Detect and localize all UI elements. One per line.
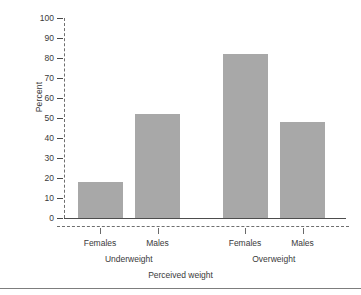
y-axis-tick-label: 20 [45, 173, 54, 183]
y-axis-tick-mark [57, 78, 63, 79]
x-axis-baseline [64, 218, 346, 220]
bar [78, 182, 123, 218]
y-axis-tick-label: 60 [45, 93, 54, 103]
x-axis-tick-mark [245, 228, 246, 234]
x-axis-group-label: Overweight [252, 254, 295, 264]
x-axis-tick-mark [303, 228, 304, 234]
y-axis-tick: 90 [18, 33, 64, 43]
bar [223, 54, 268, 218]
y-axis-tick-mark [57, 138, 63, 139]
y-axis-tick-label: 30 [45, 153, 54, 163]
x-axis-tick-label: Males [291, 238, 314, 248]
x-axis-dashed-line [57, 226, 349, 227]
bottom-divider [0, 288, 361, 289]
x-axis-group-label: Underweight [105, 254, 153, 264]
y-axis-tick: 0 [18, 213, 64, 223]
y-axis-tick-label: 40 [45, 133, 54, 143]
bar [280, 122, 325, 218]
y-axis-tick: 30 [18, 153, 64, 163]
x-axis-tick-mark [158, 228, 159, 234]
y-axis-tick-mark [57, 38, 63, 39]
y-axis-tick: 80 [18, 53, 64, 63]
y-axis-tick-mark [57, 198, 63, 199]
y-axis-tick-label: 50 [45, 113, 54, 123]
y-axis-tick-label: 0 [49, 213, 54, 223]
y-axis-tick-label: 10 [45, 193, 54, 203]
y-axis-tick: 60 [18, 93, 64, 103]
x-axis-title: Perceived weight [0, 270, 361, 280]
x-axis-tick-label: Females [229, 238, 262, 248]
y-axis-tick-label: 80 [45, 53, 54, 63]
y-axis-tick-mark [57, 178, 63, 179]
y-axis-tick-label: 100 [40, 13, 54, 23]
y-axis-tick-mark [57, 18, 63, 19]
y-axis-tick: 40 [18, 133, 64, 143]
y-axis-tick-mark [57, 118, 63, 119]
y-axis-tick: 70 [18, 73, 64, 83]
y-axis-tick: 100 [18, 13, 64, 23]
y-axis-tick-label: 70 [45, 73, 54, 83]
y-axis-tick: 10 [18, 193, 64, 203]
y-axis-tick: 50 [18, 113, 64, 123]
y-axis-tick: 20 [18, 173, 64, 183]
bar-chart-figure: Percent 0102030405060708090100 FemalesMa… [0, 0, 361, 295]
x-axis-tick-mark [100, 228, 101, 234]
y-axis-tick-mark [57, 158, 63, 159]
x-axis-tick-label: Males [146, 238, 169, 248]
plot-area [64, 18, 346, 218]
y-axis-tick-mark [57, 58, 63, 59]
x-axis-tick-label: Females [84, 238, 117, 248]
y-axis-tick-mark [57, 98, 63, 99]
y-axis-tick-mark [57, 218, 63, 219]
bar [135, 114, 180, 218]
y-axis-tick-label: 90 [45, 33, 54, 43]
